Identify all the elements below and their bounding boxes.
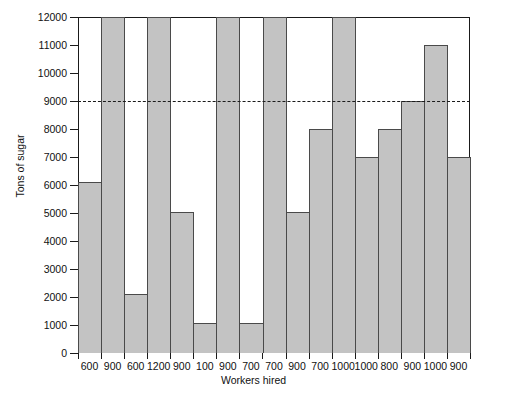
y-tick-mark [70, 101, 78, 102]
x-tick-mark [101, 353, 102, 359]
y-tick-label: 11000 [5, 40, 67, 50]
y-tick-label: 0 [5, 348, 67, 358]
y-tick-mark [70, 297, 78, 298]
y-tick-label: 4000 [5, 236, 67, 246]
y-tick-mark [70, 213, 78, 214]
y-tick-label: 12000 [5, 12, 67, 22]
x-tick-label: 700 [242, 360, 260, 372]
y-tick-mark [70, 129, 78, 130]
x-tick-label: 900 [219, 360, 237, 372]
x-tick-mark [332, 353, 333, 359]
x-tick-label: 900 [173, 360, 191, 372]
bar [193, 323, 217, 353]
x-tick-mark [401, 353, 402, 359]
y-tick-mark [70, 241, 78, 242]
y-tick-mark [70, 17, 78, 18]
x-tick-mark [470, 353, 471, 359]
x-tick-mark [239, 353, 240, 359]
y-tick-mark [70, 353, 78, 354]
y-tick-label: 2000 [5, 292, 67, 302]
x-tick-mark [424, 353, 425, 359]
threshold-line [78, 101, 470, 102]
x-tick-label: 800 [381, 360, 399, 372]
x-tick-mark [286, 353, 287, 359]
bar [124, 294, 148, 353]
bar [401, 101, 425, 353]
bar-series [78, 17, 470, 353]
bar [355, 157, 379, 353]
x-tick-label: 1000 [424, 360, 447, 372]
bar [286, 212, 310, 353]
x-tick-mark [78, 353, 79, 359]
x-tick-label: 600 [127, 360, 145, 372]
x-tick-mark [447, 353, 448, 359]
x-tick-label: 1000 [355, 360, 378, 372]
x-tick-label: 900 [104, 360, 122, 372]
x-tick-label: 700 [311, 360, 329, 372]
bar [147, 17, 171, 353]
y-tick-label: 3000 [5, 264, 67, 274]
bar [101, 17, 125, 353]
y-tick-label: 10000 [5, 68, 67, 78]
y-tick-mark [70, 269, 78, 270]
y-tick-label: 9000 [5, 96, 67, 106]
x-tick-mark [147, 353, 148, 359]
x-tick-label: 900 [404, 360, 422, 372]
x-tick-mark [193, 353, 194, 359]
y-tick-mark [70, 185, 78, 186]
x-tick-mark [262, 353, 263, 359]
bar [447, 157, 471, 353]
x-tick-mark [309, 353, 310, 359]
bar [78, 182, 102, 353]
y-tick-label: 1000 [5, 320, 67, 330]
bar [332, 17, 356, 353]
bar [309, 129, 333, 353]
x-axis-title: Workers hired [0, 374, 507, 386]
y-tick-mark [70, 325, 78, 326]
x-tick-label: 1000 [331, 360, 354, 372]
x-tick-label: 900 [288, 360, 306, 372]
y-axis-title: Tons of sugar [14, 106, 26, 226]
x-tick-label: 600 [81, 360, 99, 372]
bar [378, 129, 402, 353]
y-tick-mark [70, 73, 78, 74]
bar [239, 323, 263, 353]
x-tick-label: 1200 [147, 360, 170, 372]
x-tick-label: 100 [196, 360, 214, 372]
x-tick-mark [355, 353, 356, 359]
bar [424, 45, 448, 353]
x-tick-label: 700 [265, 360, 283, 372]
bar [263, 17, 287, 353]
bar [170, 212, 194, 353]
bar-chart-figure: 0100020003000400050006000700080009000100… [0, 0, 507, 401]
y-tick-mark [70, 45, 78, 46]
x-tick-mark [378, 353, 379, 359]
x-tick-mark [124, 353, 125, 359]
y-tick-mark [70, 157, 78, 158]
x-tick-label: 900 [450, 360, 468, 372]
bar [216, 17, 240, 353]
x-tick-mark [216, 353, 217, 359]
x-tick-mark [170, 353, 171, 359]
